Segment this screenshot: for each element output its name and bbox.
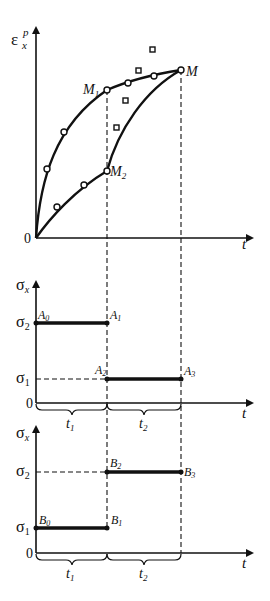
y-axis-label: ε: [11, 30, 18, 49]
middle-chart: σx σ2 σ1 0 t A0 A1 A2 A3 t1 t2: [16, 276, 252, 433]
label-m1: M1: [82, 82, 99, 99]
label-m2: M2: [109, 164, 127, 181]
label-a2: A2: [94, 363, 106, 378]
marker-circle-m: [178, 67, 184, 73]
interval-t2: t2: [139, 416, 148, 433]
point-b0: [34, 526, 39, 531]
label-m: M: [185, 64, 199, 79]
bottom-chart: σx σ2 σ1 0 t B2 B3 B0 B1 t1 t2: [16, 424, 252, 583]
y-axis-label: σx: [16, 424, 30, 443]
y-axis-sup: p: [22, 26, 29, 38]
strain-stress-diagram: ε p x t 0 M1 M M2 σx σ2: [0, 0, 270, 601]
label-a3: A3: [183, 364, 195, 379]
level-sigma2: σ2: [16, 313, 30, 332]
brace-t1: [36, 404, 107, 415]
level-sigma2: σ2: [16, 462, 30, 481]
point-a1: [105, 321, 110, 326]
marker-circle: [125, 80, 131, 86]
marker-square: [123, 98, 128, 103]
label-a1: A1: [109, 308, 121, 323]
label-a0: A0: [37, 308, 49, 323]
x-axis-label: t: [242, 555, 247, 571]
point-b1: [105, 526, 110, 531]
marker-circle: [44, 166, 50, 172]
y-axis-sub: x: [21, 39, 27, 51]
brace-t2: [107, 554, 181, 565]
label-b3: B3: [184, 465, 195, 480]
origin-label: 0: [26, 396, 33, 411]
marker-circle: [151, 73, 157, 79]
level-sigma1: σ1: [16, 518, 30, 537]
brace-t2: [107, 404, 181, 415]
label-b2: B2: [110, 456, 121, 471]
top-chart: ε p x t 0 M1 M M2: [11, 26, 252, 553]
origin-label: 0: [24, 231, 31, 246]
marker-circle: [61, 129, 67, 135]
marker-circle-m1: [104, 87, 110, 93]
point-a3: [179, 377, 184, 382]
interval-t1: t1: [66, 566, 74, 583]
marker-circle: [81, 182, 87, 188]
interval-t2: t2: [139, 566, 148, 583]
x-axis-label: t: [242, 405, 247, 421]
interval-t1: t1: [66, 416, 74, 433]
point-b2: [105, 470, 110, 475]
marker-square: [150, 47, 155, 52]
marker-square: [114, 125, 119, 130]
origin-label: 0: [26, 546, 33, 561]
curve-lower: [36, 70, 181, 238]
marker-square: [136, 68, 141, 73]
brace-t1: [36, 554, 107, 565]
marker-circle: [54, 204, 60, 210]
point-b3: [179, 470, 184, 475]
y-axis-label: σx: [16, 276, 30, 295]
label-b1: B1: [111, 513, 122, 528]
label-b0: B0: [39, 513, 50, 528]
level-sigma1: σ1: [16, 369, 30, 388]
